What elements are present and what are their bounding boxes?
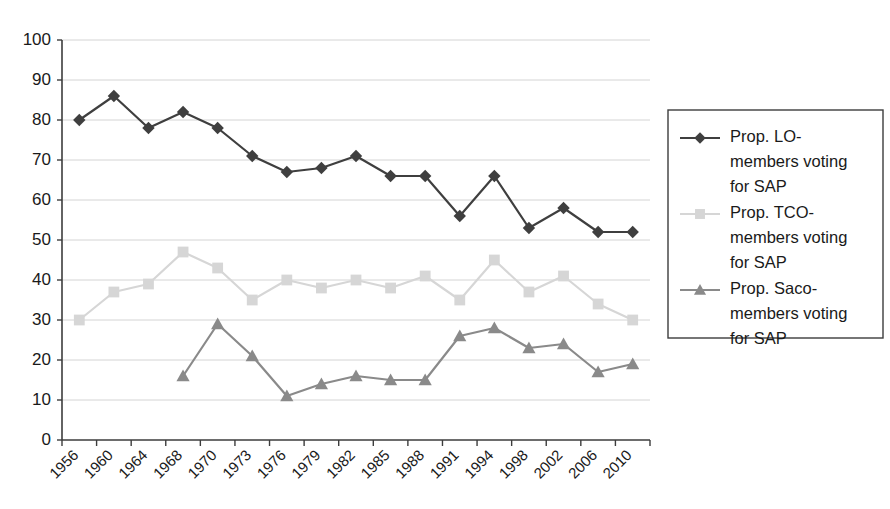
series-1 <box>73 90 639 238</box>
x-tick-label: 1985 <box>357 446 393 482</box>
data-point <box>557 337 570 349</box>
x-tick-label: 1956 <box>46 446 82 482</box>
series-line <box>79 96 632 232</box>
x-tick-label: 1991 <box>426 446 462 482</box>
x-tick-label: 1973 <box>219 446 255 482</box>
data-point <box>108 287 119 298</box>
legend-label-line: for SAP <box>730 177 787 195</box>
x-tick-label: 1982 <box>323 446 359 482</box>
x-axis-tick-labels: 1956196019641968197019731976197919821985… <box>46 446 635 482</box>
y-tick-label: 60 <box>32 190 51 209</box>
legend-label-line: Prop. LO- <box>730 127 802 145</box>
series-line <box>79 252 632 320</box>
x-tick-label: 1998 <box>495 446 531 482</box>
data-point <box>247 295 258 306</box>
data-point <box>384 170 396 182</box>
data-point <box>489 255 500 266</box>
y-tick-label: 100 <box>23 30 51 49</box>
data-point <box>176 369 189 381</box>
data-point <box>626 357 639 369</box>
series-2 <box>74 247 638 326</box>
chart-legend: Prop. LO-members votingfor SAPProp. TCO-… <box>668 110 883 347</box>
x-tick-label: 1964 <box>115 446 151 482</box>
data-point <box>523 222 535 234</box>
data-point <box>74 315 85 326</box>
data-point <box>593 299 604 310</box>
data-point <box>351 275 362 286</box>
x-tick-label: 1976 <box>253 446 289 482</box>
legend-label-line: for SAP <box>730 253 787 271</box>
data-point <box>211 317 224 329</box>
y-tick-label: 90 <box>32 70 51 89</box>
legend-label-line: Prop. TCO- <box>730 203 814 221</box>
data-point <box>454 295 465 306</box>
legend-label-line: members voting <box>730 304 847 322</box>
y-tick-label: 20 <box>32 350 51 369</box>
data-point <box>316 283 327 294</box>
legend-label-line: Prop. Saco- <box>730 279 817 297</box>
data-point <box>420 271 431 282</box>
data-point <box>524 287 535 298</box>
data-point <box>281 275 292 286</box>
x-tick-label: 2002 <box>530 446 566 482</box>
x-tick-label: 2010 <box>599 446 635 482</box>
legend-label-line: for SAP <box>730 329 787 347</box>
y-tick-label: 10 <box>32 390 51 409</box>
data-point <box>627 226 639 238</box>
x-tick-label: 1968 <box>150 446 186 482</box>
data-series-layer <box>73 90 639 401</box>
data-point <box>143 279 154 290</box>
y-axis-tick-labels: 0102030405060708090100 <box>23 30 51 449</box>
data-point <box>385 283 396 294</box>
legend-marker-icon <box>695 209 705 219</box>
data-point <box>178 247 189 258</box>
legend-label-line: members voting <box>730 152 847 170</box>
line-chart: 0102030405060708090100 19561960196419681… <box>0 0 890 509</box>
y-tick-label: 0 <box>42 430 51 449</box>
data-point <box>488 321 501 333</box>
y-tick-label: 80 <box>32 110 51 129</box>
x-tick-label: 1960 <box>80 446 116 482</box>
legend-label-line: members voting <box>730 228 847 246</box>
data-point <box>281 166 293 178</box>
y-tick-label: 70 <box>32 150 51 169</box>
x-tick-label: 1979 <box>288 446 324 482</box>
data-point <box>349 369 362 381</box>
chart-canvas: 0102030405060708090100 19561960196419681… <box>0 0 890 509</box>
x-tick-label: 2006 <box>565 446 601 482</box>
y-tick-label: 50 <box>32 230 51 249</box>
y-tick-label: 40 <box>32 270 51 289</box>
data-point <box>212 263 223 274</box>
y-tick-label: 30 <box>32 310 51 329</box>
x-tick-label: 1994 <box>461 446 497 482</box>
series-3 <box>176 317 639 401</box>
data-point <box>177 106 189 118</box>
data-point <box>315 162 327 174</box>
data-point <box>627 315 638 326</box>
x-tick-label: 1988 <box>392 446 428 482</box>
x-axis-ticks <box>62 440 650 446</box>
x-tick-label: 1970 <box>184 446 220 482</box>
data-point <box>558 271 569 282</box>
